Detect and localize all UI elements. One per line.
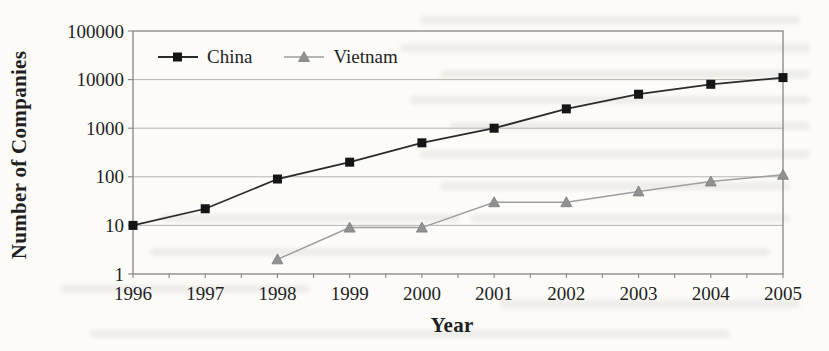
- y-tick-label: 1: [115, 264, 125, 285]
- legend-item-vietnam: Vietnam: [284, 46, 397, 68]
- data-point-china: [490, 124, 499, 133]
- x-tick-label: 2000: [403, 283, 441, 304]
- x-tick-label: 1999: [331, 283, 369, 304]
- x-axis-title: Year: [430, 313, 473, 338]
- data-point-china: [273, 175, 282, 184]
- x-tick-label: 2005: [764, 283, 802, 304]
- y-axis-title: Number of Companies: [7, 5, 32, 305]
- y-tick-label: 100000: [67, 21, 124, 42]
- data-point-vietnam: [778, 169, 789, 179]
- scanned-book-page: 1101001000100001000001996199719981999200…: [0, 0, 829, 351]
- data-point-china: [634, 90, 643, 99]
- y-tick-label: 100: [96, 166, 125, 187]
- x-tick-label: 1998: [258, 283, 296, 304]
- legend-label-china: China: [207, 46, 252, 68]
- legend-label-vietnam: Vietnam: [333, 46, 397, 68]
- x-tick-label: 2001: [475, 283, 513, 304]
- data-point-china: [345, 158, 354, 167]
- data-point-china: [779, 73, 788, 82]
- data-point-vietnam: [272, 254, 283, 264]
- series-line-china: [133, 78, 783, 226]
- chart-legend: China Vietnam: [158, 46, 398, 68]
- x-tick-label: 1997: [186, 283, 224, 304]
- y-tick-label: 1000: [86, 118, 124, 139]
- y-tick-label: 10000: [77, 69, 125, 90]
- line-chart: 1101001000100001000001996199719981999200…: [0, 0, 829, 351]
- series-line-vietnam: [277, 175, 783, 260]
- vietnam-line-triangle-marker-icon: [284, 50, 324, 64]
- chart-plot-svg: 1101001000100001000001996199719981999200…: [0, 0, 829, 351]
- x-tick-label: 2002: [547, 283, 585, 304]
- y-tick-label: 10: [105, 215, 124, 236]
- data-point-china: [562, 104, 571, 113]
- data-point-china: [417, 138, 426, 147]
- data-point-china: [706, 80, 715, 89]
- data-point-china: [201, 204, 210, 213]
- data-point-china: [129, 221, 138, 230]
- x-tick-label: 2003: [620, 283, 658, 304]
- legend-item-china: China: [158, 46, 252, 68]
- china-line-square-marker-icon: [158, 50, 198, 64]
- x-tick-label: 2004: [692, 283, 731, 304]
- x-tick-label: 1996: [114, 283, 152, 304]
